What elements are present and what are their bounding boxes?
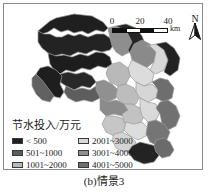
legend-items: < 5002001~3000501~10003001~40001001~2000… xyxy=(12,135,162,170)
legend-item: 2001~3000 xyxy=(78,135,160,147)
legend-title: 节水投入/万元 xyxy=(12,119,162,132)
scale-tick-0: 0 xyxy=(110,16,115,27)
legend-label: 2001~3000 xyxy=(92,136,133,147)
legend-item: 4001~5000 xyxy=(78,159,160,170)
legend-item: < 500 xyxy=(12,135,76,147)
scale-segment-1 xyxy=(113,29,127,32)
scale-bar: 0 20 40 km xyxy=(112,16,184,38)
north-arrow-icon xyxy=(187,23,203,44)
legend-item: 3001~4000 xyxy=(78,147,160,159)
legend-label: 1001~2000 xyxy=(26,160,67,171)
map-frame: 0 20 40 km N 节水投入/万元 xyxy=(3,3,203,170)
figure-caption: (b)情景3 xyxy=(0,174,208,188)
legend-swatch xyxy=(12,162,23,168)
scale-segment-2 xyxy=(127,29,141,32)
scale-unit-label: km xyxy=(170,24,180,33)
scale-tick-20: 20 xyxy=(136,16,145,27)
scale-bar-graphic xyxy=(112,28,168,33)
legend-swatch xyxy=(78,150,89,156)
scale-segment-4 xyxy=(154,29,168,32)
legend-label: 501~1000 xyxy=(26,148,62,159)
map-region xyxy=(38,31,114,56)
legend-label: < 500 xyxy=(26,136,47,147)
legend-item: 1001~2000 xyxy=(12,159,76,170)
legend-label: 4001~5000 xyxy=(92,160,133,171)
legend-label: 3001~4000 xyxy=(92,148,133,159)
legend-swatch xyxy=(78,138,89,144)
scale-segment-3 xyxy=(140,29,154,32)
north-arrow: N xyxy=(187,13,203,42)
map-legend: 节水投入/万元 < 5002001~3000501~10003001~40001… xyxy=(12,119,162,170)
legend-swatch xyxy=(12,138,23,144)
legend-swatch xyxy=(78,162,89,168)
legend-item: 501~1000 xyxy=(12,147,76,159)
legend-swatch xyxy=(12,150,23,156)
figure-panel: 0 20 40 km N 节水投入/万元 xyxy=(0,0,208,195)
map-region xyxy=(38,14,108,34)
